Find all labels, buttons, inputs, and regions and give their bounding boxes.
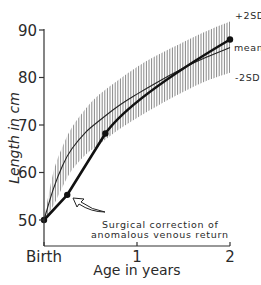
growth-chart: 5060708090 Birth12 Age in years Length i… [0, 0, 261, 285]
patient-line [44, 40, 230, 221]
x-tick-label: Birth [26, 248, 62, 266]
plus-2sd-label: +2SD [235, 10, 261, 21]
minus-2sd-label: -2SD [235, 72, 260, 83]
x-tick-label: 2 [225, 248, 235, 266]
data-point-marker [227, 36, 233, 42]
data-point-marker [64, 192, 70, 198]
y-axis-title: Length in cm [6, 92, 22, 184]
y-tick-label: 80 [18, 69, 37, 87]
annotation-text-line2: anomalous venous return [91, 229, 229, 240]
annotation-arrow-icon [73, 198, 105, 212]
patient-markers [41, 36, 233, 223]
surgery-annotation: Surgical correction of anomalous venous … [73, 198, 229, 240]
data-point-marker [102, 130, 108, 136]
mean-curve [44, 48, 230, 220]
y-tick-label: 90 [18, 22, 37, 40]
mean-label: mean [234, 42, 261, 53]
sd-band [45, 10, 230, 230]
y-tick-label: 50 [18, 212, 37, 230]
x-axis-title: Age in years [93, 262, 180, 278]
